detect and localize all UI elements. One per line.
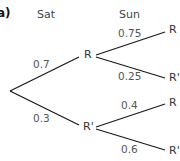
prob-sat-Rprime: 0.3 (33, 112, 50, 124)
probability-tree-diagram: a) Sat Sun 0.7 0.3 R R' 0.75 0.25 0.4 0.… (0, 0, 180, 161)
leaf-R-Rprime: R' (169, 72, 180, 84)
prob-sun-R-given-Rprime: 0.4 (121, 99, 138, 111)
node-sat-R: R (84, 49, 92, 61)
header-sat: Sat (37, 9, 55, 21)
leaf-Rprime-R: R (169, 97, 177, 109)
leaf-R-R: R (169, 24, 177, 36)
header-sun: Sun (119, 9, 140, 21)
prob-sun-Rprime-given-R: 0.25 (118, 70, 141, 82)
prob-sun-Rprime-given-Rprime: 0.6 (121, 143, 138, 155)
node-sat-Rprime: R' (83, 121, 94, 133)
tree-branches (0, 0, 180, 161)
leaf-Rprime-Rprime: R' (169, 145, 180, 157)
prob-sat-R: 0.7 (33, 58, 50, 70)
prob-sun-R-given-R: 0.75 (118, 27, 141, 39)
part-label: a) (0, 7, 11, 19)
